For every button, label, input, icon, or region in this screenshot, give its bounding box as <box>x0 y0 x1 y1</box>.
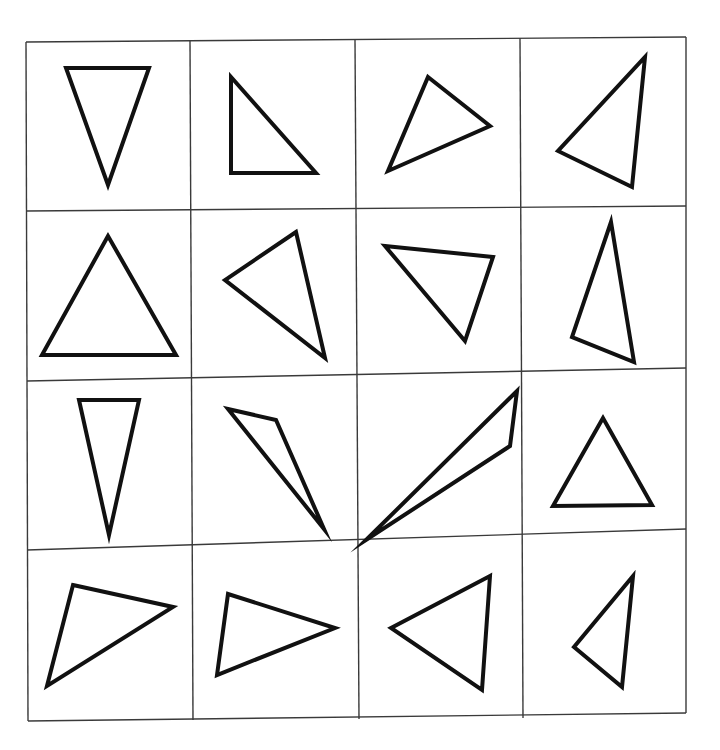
triangle-grid-worksheet <box>0 0 720 750</box>
